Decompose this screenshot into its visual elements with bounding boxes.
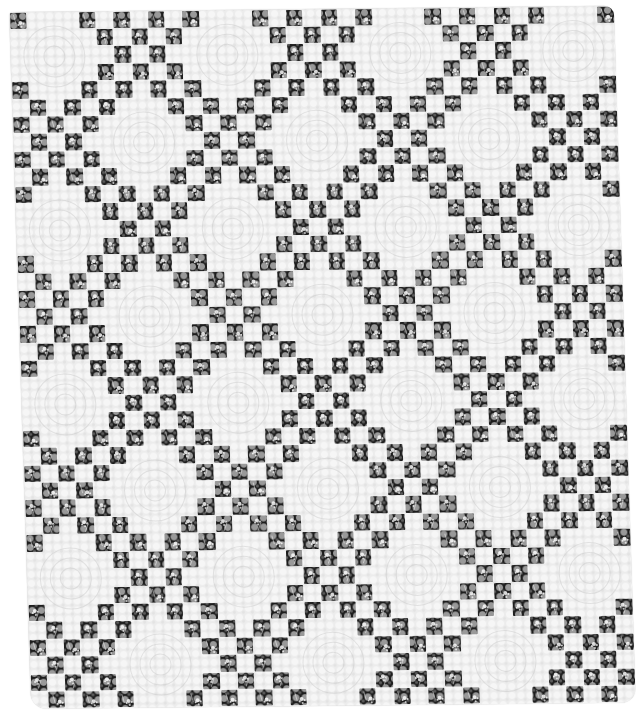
light-square bbox=[479, 129, 497, 147]
light-square bbox=[350, 427, 368, 445]
dark-print-square bbox=[288, 619, 305, 636]
dark-print-square bbox=[137, 203, 154, 220]
light-square bbox=[484, 268, 502, 286]
dark-print-square bbox=[195, 429, 212, 446]
light-square bbox=[272, 689, 290, 707]
light-square bbox=[347, 322, 365, 340]
light-square bbox=[544, 547, 562, 565]
dark-print-square bbox=[81, 81, 98, 98]
light-square bbox=[517, 216, 535, 234]
light-square bbox=[324, 148, 342, 166]
dark-print-square bbox=[387, 479, 404, 496]
dark-print-square bbox=[275, 201, 292, 218]
light-square bbox=[391, 600, 409, 618]
light-square bbox=[197, 480, 215, 498]
dark-print-square bbox=[131, 28, 148, 45]
light-square bbox=[408, 600, 426, 618]
light-square bbox=[580, 41, 598, 59]
light-square bbox=[315, 392, 333, 410]
dark-print-square bbox=[424, 8, 441, 25]
light-square bbox=[63, 621, 81, 639]
light-square bbox=[199, 550, 217, 568]
light-square bbox=[90, 394, 108, 412]
light-square bbox=[145, 481, 163, 499]
dark-print-square bbox=[276, 236, 293, 253]
dark-print-square bbox=[437, 426, 454, 443]
light-square bbox=[44, 569, 62, 587]
light-square bbox=[58, 482, 76, 500]
light-square bbox=[496, 669, 514, 687]
light-square bbox=[245, 375, 263, 393]
light-square bbox=[347, 305, 365, 323]
dark-print-square bbox=[393, 653, 410, 670]
light-square bbox=[596, 546, 614, 564]
dark-print-square bbox=[114, 46, 131, 63]
light-square bbox=[564, 58, 582, 76]
light-square bbox=[445, 147, 463, 165]
light-square bbox=[305, 636, 323, 654]
light-square bbox=[86, 272, 104, 290]
light-square bbox=[274, 183, 292, 201]
light-square bbox=[230, 428, 248, 446]
light-square bbox=[227, 358, 245, 376]
light-square bbox=[452, 356, 470, 374]
light-square bbox=[425, 583, 443, 601]
light-square bbox=[308, 166, 326, 184]
light-square bbox=[461, 652, 479, 670]
dark-print-square bbox=[499, 181, 516, 198]
light-square bbox=[252, 584, 270, 602]
light-square bbox=[612, 511, 630, 529]
dark-print-square bbox=[231, 463, 248, 480]
light-square bbox=[549, 146, 567, 164]
dark-print-square bbox=[549, 669, 566, 686]
light-square bbox=[166, 620, 184, 638]
light-square bbox=[131, 586, 149, 604]
light-square bbox=[337, 549, 355, 567]
dark-print-square bbox=[18, 291, 35, 308]
light-square bbox=[213, 463, 231, 481]
dark-print-square bbox=[338, 26, 355, 43]
light-square bbox=[344, 217, 362, 235]
dark-print-square bbox=[593, 442, 610, 459]
light-square bbox=[503, 338, 521, 356]
light-square bbox=[242, 288, 260, 306]
light-square bbox=[301, 497, 319, 515]
dark-print-square bbox=[466, 252, 483, 269]
light-square bbox=[382, 322, 400, 340]
light-square bbox=[589, 319, 607, 337]
light-square bbox=[518, 250, 536, 268]
light-square bbox=[183, 62, 201, 80]
light-square bbox=[20, 378, 38, 396]
light-square bbox=[23, 447, 41, 465]
light-square bbox=[406, 531, 424, 549]
light-square bbox=[216, 550, 234, 568]
dark-print-square bbox=[86, 256, 103, 273]
light-square bbox=[586, 215, 604, 233]
light-square bbox=[110, 481, 128, 499]
light-square bbox=[105, 307, 123, 325]
dark-print-square bbox=[138, 238, 155, 255]
light-square bbox=[295, 323, 313, 341]
dark-print-square bbox=[185, 80, 202, 97]
light-square bbox=[460, 59, 478, 77]
light-square bbox=[534, 215, 552, 233]
dark-print-square bbox=[117, 691, 134, 708]
light-square bbox=[303, 9, 321, 27]
light-square bbox=[42, 500, 60, 518]
light-square bbox=[393, 130, 411, 148]
dark-print-square bbox=[88, 325, 105, 342]
light-square bbox=[530, 93, 548, 111]
light-square bbox=[267, 515, 285, 533]
dark-print-square bbox=[595, 477, 612, 494]
dark-print-square bbox=[182, 551, 199, 568]
dark-print-square bbox=[47, 657, 64, 674]
dark-print-square bbox=[48, 151, 65, 168]
dark-print-square bbox=[530, 77, 547, 94]
dark-print-square bbox=[585, 163, 602, 180]
dark-print-square bbox=[493, 548, 510, 565]
light-square bbox=[597, 581, 615, 599]
light-square bbox=[216, 533, 234, 551]
light-square bbox=[512, 617, 530, 635]
dark-print-square bbox=[438, 461, 455, 478]
light-square bbox=[271, 654, 289, 672]
